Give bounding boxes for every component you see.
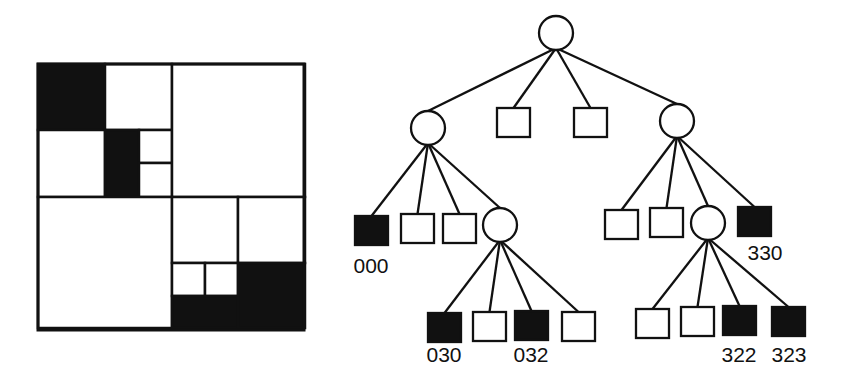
tree-edge <box>428 143 460 214</box>
empty-cell <box>238 197 305 263</box>
filled-leaf-node <box>723 306 756 335</box>
node-label: 323 <box>771 343 806 366</box>
empty-leaf-node <box>574 108 607 137</box>
node-label: 030 <box>426 343 461 366</box>
empty-cell <box>205 263 238 296</box>
tree-edge <box>500 240 532 311</box>
empty-leaf-node <box>401 214 434 243</box>
quadtree-region <box>38 64 305 330</box>
filled-cell <box>238 263 305 328</box>
tree-edges <box>372 48 789 313</box>
filled-leaf-node <box>428 313 461 342</box>
empty-leaf-node <box>636 309 669 338</box>
tree-edge <box>514 48 557 108</box>
empty-leaf-node <box>443 214 476 243</box>
internal-node <box>483 208 517 242</box>
node-label: 322 <box>721 343 756 366</box>
tree-edge <box>677 136 708 206</box>
empty-leaf-node <box>562 312 595 341</box>
filled-cell <box>105 130 139 197</box>
internal-node <box>691 206 725 240</box>
node-label: 330 <box>747 241 782 264</box>
node-label: 032 <box>513 343 548 366</box>
filled-cell <box>38 64 105 130</box>
node-label: 000 <box>353 254 388 277</box>
tree-edge <box>677 136 755 207</box>
empty-cell <box>172 263 205 296</box>
empty-leaf-node <box>605 210 638 239</box>
tree-edge <box>428 48 556 111</box>
empty-leaf-node <box>473 312 506 341</box>
empty-cell <box>139 130 172 163</box>
empty-cell <box>38 197 172 328</box>
empty-cell <box>105 64 172 130</box>
tree-edge <box>500 240 579 312</box>
empty-leaf-node <box>681 307 714 336</box>
empty-cell <box>38 130 105 197</box>
internal-node <box>539 16 573 50</box>
filled-leaf-node <box>355 216 388 245</box>
quadtree-diagram: 000030032330322323 <box>0 0 850 389</box>
tree-edge <box>428 143 500 208</box>
empty-cell <box>139 163 172 197</box>
internal-node <box>411 111 445 145</box>
empty-leaf-node <box>650 208 683 237</box>
filled-leaf-node <box>515 311 548 340</box>
empty-cell <box>172 197 238 263</box>
tree-edge <box>708 238 740 306</box>
empty-leaf-node <box>497 108 530 137</box>
filled-leaf-node <box>738 207 771 236</box>
tree-edge <box>556 48 677 104</box>
filled-leaf-node <box>772 307 805 336</box>
filled-cell <box>172 296 238 328</box>
empty-cell <box>172 64 305 197</box>
internal-node <box>660 104 694 138</box>
